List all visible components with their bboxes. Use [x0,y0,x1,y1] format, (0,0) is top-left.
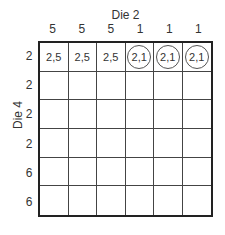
grid-cell [97,186,126,215]
grid-cell: 2,5 [97,43,126,72]
column-header: 1 [155,22,184,36]
circled-outcome: 2,1 [185,45,209,69]
grid-cell [40,129,69,158]
grid-cell [97,72,126,101]
column-header: 1 [184,22,213,36]
row-header: 6 [22,158,36,187]
circled-outcome: 2,1 [156,45,180,69]
grid-cell [69,158,98,187]
row-header: 2 [22,100,36,129]
grid-cell [183,129,212,158]
grid-cell [154,186,183,215]
row-header: 2 [22,129,36,158]
outcome-grid: 2,52,52,52,12,12,1 [38,41,213,217]
grid-cell [154,100,183,129]
circled-outcome: 2,1 [127,45,151,69]
grid-cell [97,100,126,129]
row-header: 2 [22,41,36,70]
row-header: 6 [22,188,36,217]
die-2-title: Die 2 [38,8,213,22]
column-headers: 5 5 5 1 1 1 [38,22,213,36]
grid-cell: 2,5 [69,43,98,72]
grid-cell [40,100,69,129]
grid-cell [40,158,69,187]
column-header: 1 [126,22,155,36]
grid-cell [126,100,155,129]
grid-cell [69,72,98,101]
grid-cell: 2,5 [40,43,69,72]
grid-cell [40,186,69,215]
grid-cell [183,186,212,215]
grid-cell [69,186,98,215]
grid-cell [154,72,183,101]
grid-cell [97,129,126,158]
grid-cell: 2,1 [126,43,155,72]
grid-cell [154,158,183,187]
row-header: 2 [22,70,36,99]
grid-cell [40,72,69,101]
grid-cell [126,158,155,187]
cell-value: 2,5 [46,51,61,63]
grid-cell [183,158,212,187]
grid-cell [69,100,98,129]
grid-cell [183,100,212,129]
grid-cell [126,186,155,215]
column-header: 5 [38,22,67,36]
column-header: 5 [67,22,96,36]
cell-value: 2,5 [103,51,118,63]
grid-cell [97,158,126,187]
grid-cell: 2,1 [183,43,212,72]
column-header: 5 [96,22,125,36]
grid-cell: 2,1 [154,43,183,72]
grid-cell [126,129,155,158]
cell-value: 2,5 [75,51,90,63]
grid-cell [69,129,98,158]
grid-cell [154,129,183,158]
row-headers: 2 2 2 2 6 6 [22,41,36,217]
grid-cell [126,72,155,101]
grid-cell [183,72,212,101]
